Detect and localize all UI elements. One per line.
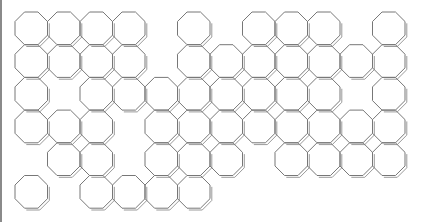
octagon-r1-c6: [210, 45, 243, 78]
octagon-r3-c6: [210, 110, 243, 143]
octagon-shadow: [254, 56, 277, 79]
octagon-shadow: [156, 154, 179, 177]
octagon-r2-c2: [80, 77, 113, 110]
octagon-r1-c7: [243, 45, 276, 78]
octagon-shadow: [351, 154, 374, 177]
octagon-shadow: [319, 56, 342, 79]
octagon-r4-c9: [308, 143, 341, 176]
octagon-shadow: [221, 89, 244, 112]
octagon-r5-c5: [178, 176, 211, 209]
octagon-r1-c0: [15, 45, 48, 78]
octagon-shadow: [124, 23, 147, 46]
octagon-r2-c6: [210, 77, 243, 110]
octagon-shadow: [59, 23, 82, 46]
octagon-shadow: [156, 89, 179, 112]
octagon-r1-c3: [113, 45, 146, 78]
octagon-shadow: [91, 56, 114, 79]
octagon-shadow: [254, 121, 277, 144]
octagon-r0-c5: [178, 12, 211, 45]
octagon-shadow: [26, 187, 49, 210]
octagon-shadow: [26, 89, 49, 112]
octagon-layer: [15, 12, 405, 208]
octagon-r4-c11: [373, 143, 406, 176]
octagon-shadow: [351, 121, 374, 144]
octagon-r1-c10: [340, 45, 373, 78]
octagon-r0-c11: [373, 12, 406, 45]
octagon-shadow: [59, 56, 82, 79]
octagon-shadow: [124, 56, 147, 79]
octagon-r1-c8: [275, 45, 308, 78]
octagon-shadow: [26, 56, 49, 79]
octagon-r4-c6: [210, 143, 243, 176]
octagon-r3-c8: [275, 110, 308, 143]
octagon-shadow: [286, 154, 309, 177]
octagon-r3-c5: [178, 110, 211, 143]
octagon-r2-c3: [113, 77, 146, 110]
octagon-shadow: [91, 154, 114, 177]
octagon-r4-c10: [340, 143, 373, 176]
octagon-r3-c9: [308, 110, 341, 143]
octagon-shadow: [91, 89, 114, 112]
octagon-shadow: [221, 121, 244, 144]
octagon-r1-c9: [308, 45, 341, 78]
octagon-shadow: [319, 154, 342, 177]
octagon-r0-c1: [48, 12, 81, 45]
octagon-shadow: [286, 121, 309, 144]
octagon-shadow: [156, 121, 179, 144]
octagon-r4-c5: [178, 143, 211, 176]
octagon-r2-c0: [15, 77, 48, 110]
octagon-r3-c7: [243, 110, 276, 143]
octagon-r0-c9: [308, 12, 341, 45]
octagon-shadow: [286, 56, 309, 79]
octagon-r4-c4: [145, 143, 178, 176]
octagon-r3-c1: [48, 110, 81, 143]
octagon-shadow: [221, 154, 244, 177]
octagon-shadow: [124, 89, 147, 112]
octagon-r5-c4: [145, 176, 178, 209]
octagon-r0-c2: [80, 12, 113, 45]
octagon-shadow: [189, 187, 212, 210]
octagon-shadow: [384, 56, 407, 79]
octagon-shadow: [91, 187, 114, 210]
octagon-shadow: [286, 23, 309, 46]
octagon-shadow: [384, 121, 407, 144]
octagon-r1-c11: [373, 45, 406, 78]
octagon-shadow: [26, 23, 49, 46]
octagon-r4-c1: [48, 143, 81, 176]
octagon-shadow: [384, 89, 407, 112]
octagon-r1-c1: [48, 45, 81, 78]
octagon-shadow: [189, 23, 212, 46]
octagon-shadow: [59, 121, 82, 144]
octagon-shadow: [91, 121, 114, 144]
octagon-r3-c10: [340, 110, 373, 143]
octagon-shadow: [26, 121, 49, 144]
octagon-shadow: [319, 121, 342, 144]
octagon-r1-c2: [80, 45, 113, 78]
octagon-shadow: [254, 89, 277, 112]
octagon-shadow: [351, 56, 374, 79]
octagon-r2-c11: [373, 77, 406, 110]
octagon-r2-c7: [243, 77, 276, 110]
octagon-r3-c2: [80, 110, 113, 143]
octagon-r5-c3: [113, 176, 146, 209]
octagon-shadow: [91, 23, 114, 46]
octagon-shadow: [189, 154, 212, 177]
octagon-shadow: [189, 121, 212, 144]
octagon-r0-c8: [275, 12, 308, 45]
octagon-shadow: [221, 56, 244, 79]
octagon-r3-c11: [373, 110, 406, 143]
octagon-shadow: [384, 23, 407, 46]
octagon-r0-c7: [243, 12, 276, 45]
octagon-shadow: [384, 154, 407, 177]
octagon-shadow: [189, 56, 212, 79]
octagon-shadow: [124, 187, 147, 210]
octagon-r3-c0: [15, 110, 48, 143]
octagon-shadow: [189, 89, 212, 112]
octagon-shadow: [319, 89, 342, 112]
octagon-r0-c3: [113, 12, 146, 45]
octagon-r4-c8: [275, 143, 308, 176]
octagon-shadow: [319, 23, 342, 46]
octagon-r0-c0: [15, 12, 48, 45]
octagon-r4-c2: [80, 143, 113, 176]
octagon-shadow: [254, 23, 277, 46]
